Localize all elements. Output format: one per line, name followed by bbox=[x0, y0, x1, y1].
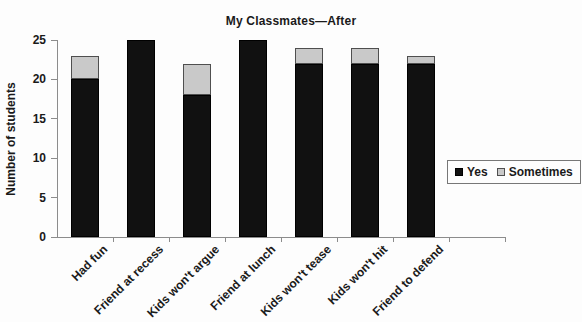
legend-sometimes-swatch-icon bbox=[497, 168, 505, 176]
y-axis-tick-label: 5 bbox=[16, 192, 46, 204]
legend-item-sometimes: Sometimes bbox=[497, 165, 573, 179]
bar-segment-yes bbox=[239, 40, 267, 237]
bar-segment-sometimes bbox=[351, 48, 379, 64]
y-axis-tick bbox=[51, 158, 57, 159]
bar-segment-yes bbox=[407, 64, 435, 237]
bar-segment-yes bbox=[127, 40, 155, 237]
bar-segment-sometimes bbox=[407, 56, 435, 64]
bar-segment-yes bbox=[351, 64, 379, 237]
y-axis-tick-label: 20 bbox=[16, 73, 46, 85]
chart-title: My Classmates—After bbox=[0, 14, 582, 28]
x-axis-tick bbox=[505, 237, 506, 242]
y-axis-tick bbox=[51, 197, 57, 198]
x-axis-tick bbox=[337, 237, 338, 242]
bar-segment-yes bbox=[71, 79, 99, 237]
bar-segment-sometimes bbox=[183, 64, 211, 96]
y-axis-tick bbox=[51, 237, 57, 238]
x-axis-tick bbox=[225, 237, 226, 242]
y-axis-tick bbox=[51, 40, 57, 41]
y-axis-tick-label: 25 bbox=[16, 34, 46, 46]
y-axis-tick bbox=[51, 118, 57, 119]
y-axis-tick-label: 10 bbox=[16, 152, 46, 164]
legend-label: Sometimes bbox=[509, 165, 573, 179]
x-axis-tick bbox=[169, 237, 170, 242]
x-axis-tick bbox=[113, 237, 114, 242]
y-axis-tick-label: 15 bbox=[16, 113, 46, 125]
bar-segment-sometimes bbox=[295, 48, 323, 64]
legend: YesSometimes bbox=[447, 160, 581, 184]
y-axis-line bbox=[57, 40, 58, 238]
x-axis-tick bbox=[449, 237, 450, 242]
legend-label: Yes bbox=[467, 165, 488, 179]
bar-segment-yes bbox=[183, 95, 211, 237]
bar-segment-yes bbox=[295, 64, 323, 237]
bar-segment-sometimes bbox=[71, 56, 99, 80]
legend-yes-swatch-icon bbox=[455, 168, 463, 176]
legend-item-yes: Yes bbox=[455, 165, 488, 179]
x-axis-tick bbox=[393, 237, 394, 242]
x-axis-tick bbox=[281, 237, 282, 242]
y-axis-tick bbox=[51, 79, 57, 80]
y-axis-tick-label: 0 bbox=[16, 231, 46, 243]
